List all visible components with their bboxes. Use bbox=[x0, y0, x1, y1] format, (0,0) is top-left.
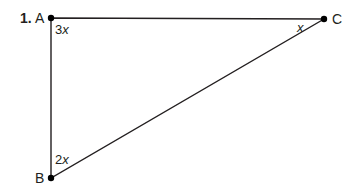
vertex-label-c: C bbox=[332, 12, 342, 26]
angle-label-b: 2x bbox=[55, 153, 69, 166]
point-c bbox=[321, 16, 327, 22]
point-b bbox=[48, 175, 54, 181]
angle-label-c: x bbox=[297, 21, 304, 34]
triangle-abc bbox=[51, 18, 324, 178]
vertex-label-a: A bbox=[35, 11, 44, 25]
vertex-label-b: B bbox=[35, 171, 44, 185]
point-a bbox=[48, 15, 54, 21]
problem-number: 1. bbox=[20, 11, 32, 25]
angle-label-a: 3x bbox=[55, 23, 69, 36]
